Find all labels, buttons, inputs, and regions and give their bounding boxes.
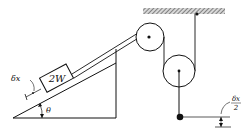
hanging-displacement-marker: δx 2	[180, 95, 241, 127]
ceiling-anchor	[195, 12, 198, 15]
delta-x-over-2-denominator: 2	[233, 104, 239, 112]
theta-label: θ	[46, 106, 51, 115]
block-label: 2W	[48, 73, 66, 84]
block-2w: 2W	[39, 63, 74, 93]
displacement-marker: δx	[11, 74, 41, 100]
ceiling-support	[143, 8, 225, 14]
delta-x-label: δx	[11, 74, 21, 83]
angle-marker: θ	[38, 103, 51, 118]
fixed-pulley	[136, 23, 164, 51]
pulley-incline-diagram: 2W δx θ δx 2	[0, 0, 250, 138]
delta-x-over-2-numerator: δx	[232, 95, 240, 103]
incline-rope	[72, 33, 140, 78]
